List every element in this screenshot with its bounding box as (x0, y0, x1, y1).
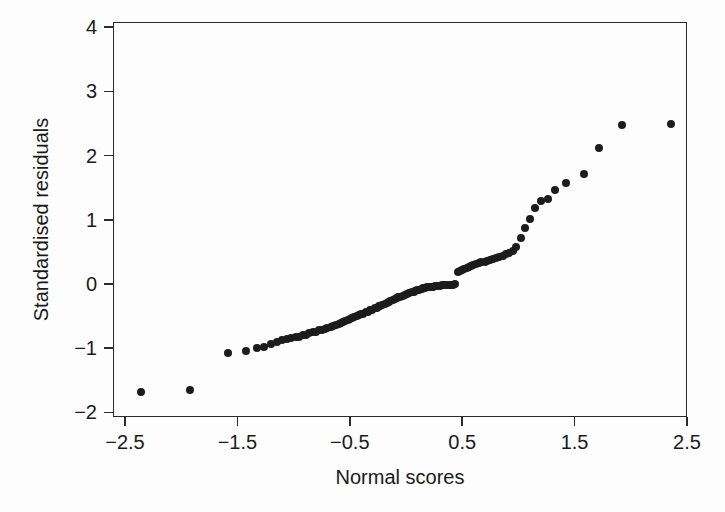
y-tick-label: 0 (86, 273, 97, 296)
y-tick-mark (104, 26, 113, 28)
x-tick-mark (574, 417, 576, 426)
x-tick-label: −2.5 (105, 431, 144, 454)
y-tick-mark (104, 347, 113, 349)
qq-plot-figure: 43210−1−2−2.5−1.5−0.50.51.52.5 Standardi… (0, 0, 725, 512)
y-tick-label: 2 (86, 144, 97, 167)
x-tick-mark (349, 417, 351, 426)
y-tick-mark (104, 155, 113, 157)
x-tick-label: 1.5 (561, 431, 589, 454)
x-tick-mark (461, 417, 463, 426)
x-tick-mark (686, 417, 688, 426)
y-tick-mark (104, 412, 113, 414)
y-tick-label: −2 (74, 401, 97, 424)
x-tick-mark (124, 417, 126, 426)
x-tick-label: −0.5 (330, 431, 369, 454)
y-tick-label: 3 (86, 80, 97, 103)
x-tick-label: 0.5 (448, 431, 476, 454)
y-tick-mark (104, 219, 113, 221)
y-tick-label: −1 (74, 337, 97, 360)
y-axis-title: Standardised residuals (30, 22, 60, 417)
y-tick-mark (104, 283, 113, 285)
x-tick-label: −1.5 (218, 431, 257, 454)
y-tick-mark (104, 91, 113, 93)
y-tick-label: 1 (86, 208, 97, 231)
x-axis-title: Normal scores (113, 466, 687, 489)
y-tick-label: 4 (86, 16, 97, 39)
x-tick-label: 2.5 (673, 431, 701, 454)
x-tick-mark (237, 417, 239, 426)
plot-frame (113, 22, 687, 417)
